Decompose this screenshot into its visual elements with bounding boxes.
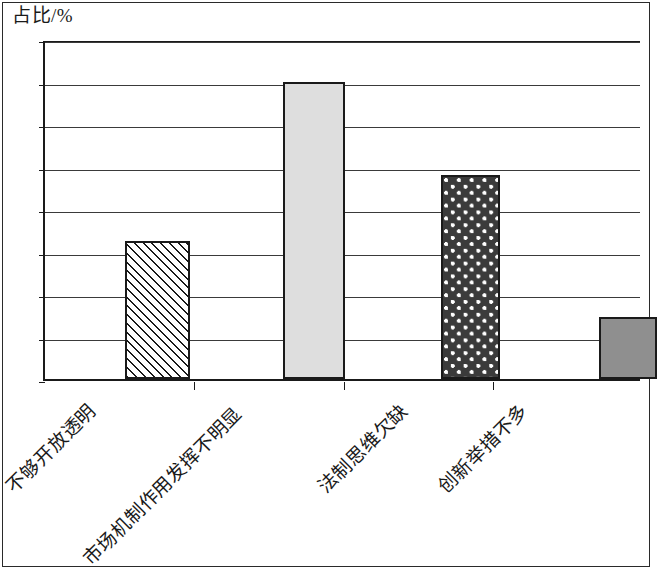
bar-4 — [599, 317, 657, 379]
bar-2 — [283, 82, 345, 379]
gridline-40 — [45, 42, 640, 43]
y-tick-mark-20 — [39, 212, 45, 213]
category-label-2: 市场机制作用发挥不明显 — [79, 403, 246, 570]
y-tick-mark-30 — [39, 127, 45, 128]
bar-1 — [125, 241, 190, 379]
y-tick-mark-5 — [39, 340, 45, 341]
y-axis-title: 占比/% — [12, 6, 73, 26]
bar-3 — [441, 175, 500, 379]
category-label-4: 创新举措不多 — [434, 400, 532, 498]
y-tick-mark-0 — [39, 382, 45, 383]
category-label-1: 不够开放透明 — [2, 400, 100, 498]
y-tick-mark-35 — [39, 85, 45, 86]
y-tick-mark-40 — [39, 42, 45, 43]
x-tick-mark-3 — [493, 382, 494, 390]
y-tick-mark-10 — [39, 297, 45, 298]
x-tick-mark-2 — [344, 382, 345, 390]
y-tick-mark-25 — [39, 170, 45, 171]
y-tick-mark-15 — [39, 255, 45, 256]
x-tick-mark-1 — [194, 382, 195, 390]
plot-area: 4035302520151050 — [43, 41, 640, 381]
category-label-3: 法制思维欠缺 — [314, 400, 412, 498]
